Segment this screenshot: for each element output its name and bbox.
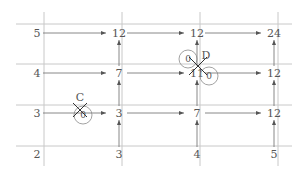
node-label: 5: [34, 27, 41, 40]
point-label-c: C: [76, 91, 84, 104]
point-label-d: D: [202, 49, 211, 62]
zero-label: 0: [80, 110, 86, 120]
node-label: 3: [34, 107, 41, 120]
node-label: 12: [267, 107, 281, 120]
node-label: 11: [190, 67, 204, 80]
node-label: 12: [267, 67, 281, 80]
node-label: 12: [190, 27, 204, 40]
node-label: 5: [271, 148, 278, 161]
node-label: 7: [194, 107, 201, 120]
lattice-diagram: 5121224471112337122345 C000D: [0, 0, 292, 178]
grid-lines: [16, 12, 292, 166]
diagram-canvas: 5121224471112337122345 C000D: [0, 0, 292, 178]
path-arrows: [43, 33, 274, 147]
node-label: 24: [267, 27, 281, 40]
zero-label: 0: [206, 71, 212, 81]
node-labels: 5121224471112337122345: [34, 27, 282, 161]
node-label: 3: [116, 148, 123, 161]
node-label: 4: [194, 148, 201, 161]
node-label: 7: [116, 67, 123, 80]
node-label: 12: [112, 27, 126, 40]
zero-label: 0: [185, 54, 191, 64]
node-label: 3: [116, 107, 123, 120]
node-label: 4: [34, 67, 41, 80]
node-label: 2: [34, 148, 41, 161]
